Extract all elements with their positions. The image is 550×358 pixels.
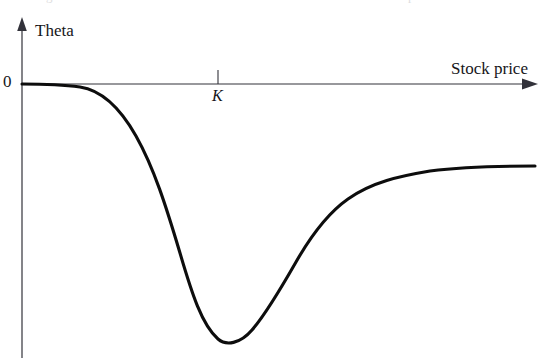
y-axis-label: Theta [35,21,74,41]
strike-tick-label: K [212,87,223,105]
chart-canvas [0,0,550,358]
theta-curve [22,84,535,343]
x-axis-arrowhead [522,79,538,90]
y-axis-arrowhead [17,17,27,31]
theta-graph-figure: gure price Theta Stock price 0 K [0,0,550,358]
origin-tick-label: 0 [3,72,12,92]
x-axis-label: Stock price [451,59,528,79]
